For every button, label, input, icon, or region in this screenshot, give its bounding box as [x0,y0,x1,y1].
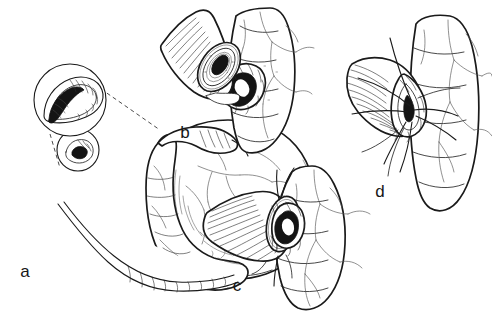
panel-label-d: d [375,182,384,201]
panel-label-a: a [20,262,30,281]
figure-container: a [0,0,492,312]
surgical-illustration: a [0,0,492,312]
panel-label-c: c [233,276,242,295]
panel-label-b: b [180,123,189,142]
magnified-inset [34,64,106,136]
